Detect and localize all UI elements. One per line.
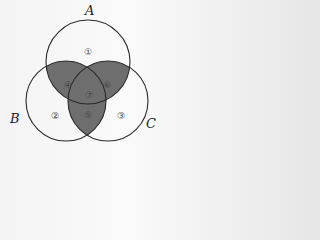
set-label-b: B	[9, 111, 20, 126]
region-5-number: ⑤	[84, 110, 92, 120]
region-7-number: ⑦	[85, 90, 93, 100]
shaded-intersections	[26, 20, 130, 141]
region-6-number: ⑥	[103, 80, 111, 90]
set-label-a: A	[84, 3, 94, 18]
region-4-number: ④	[64, 80, 72, 90]
region-1-number: ①	[84, 47, 92, 57]
set-label-c: C	[146, 116, 156, 131]
region-3-number: ③	[117, 111, 125, 121]
region-2-number: ②	[51, 111, 59, 121]
venn-diagram: ABC ①②③④⑤⑥⑦	[0, 0, 161, 148]
